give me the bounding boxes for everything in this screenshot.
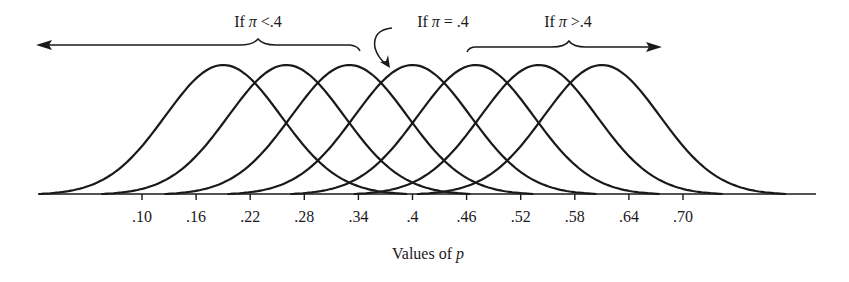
- x-tick-label: .10: [132, 208, 152, 225]
- annotation-less-than: If π <.4: [234, 13, 282, 30]
- normal-curves: [38, 65, 786, 194]
- x-axis-ticks: .10.16.22.28.34.4.46.52.58.64.70: [132, 194, 693, 225]
- normal-curve: [417, 65, 786, 194]
- normal-curve: [164, 65, 533, 194]
- x-tick-label: .16: [186, 208, 206, 225]
- sampling-distributions-chart: .10.16.22.28.34.4.46.52.58.64.70 Values …: [0, 0, 849, 282]
- x-tick-label: .64: [619, 208, 639, 225]
- normal-curve: [354, 65, 723, 194]
- x-tick-label: .28: [294, 208, 314, 225]
- x-axis-label: Values of p: [392, 245, 464, 263]
- x-tick-label: .22: [240, 208, 260, 225]
- normal-curve: [38, 65, 407, 194]
- x-tick-label: .4: [407, 208, 419, 225]
- right-brace-arrow: [467, 41, 662, 52]
- left-brace-arrow: [36, 39, 360, 51]
- x-tick-label: .46: [457, 208, 477, 225]
- annotation-equal: If π = .4: [417, 13, 469, 30]
- normal-curve: [291, 65, 660, 194]
- normal-curve: [228, 65, 597, 194]
- x-tick-label: .52: [511, 208, 531, 225]
- x-tick-label: .34: [348, 208, 368, 225]
- normal-curve: [101, 65, 470, 194]
- curved-pointer-arrow: [375, 28, 392, 68]
- x-tick-label: .70: [673, 208, 693, 225]
- annotation-greater-than: If π >.4: [544, 13, 592, 30]
- x-tick-label: .58: [565, 208, 585, 225]
